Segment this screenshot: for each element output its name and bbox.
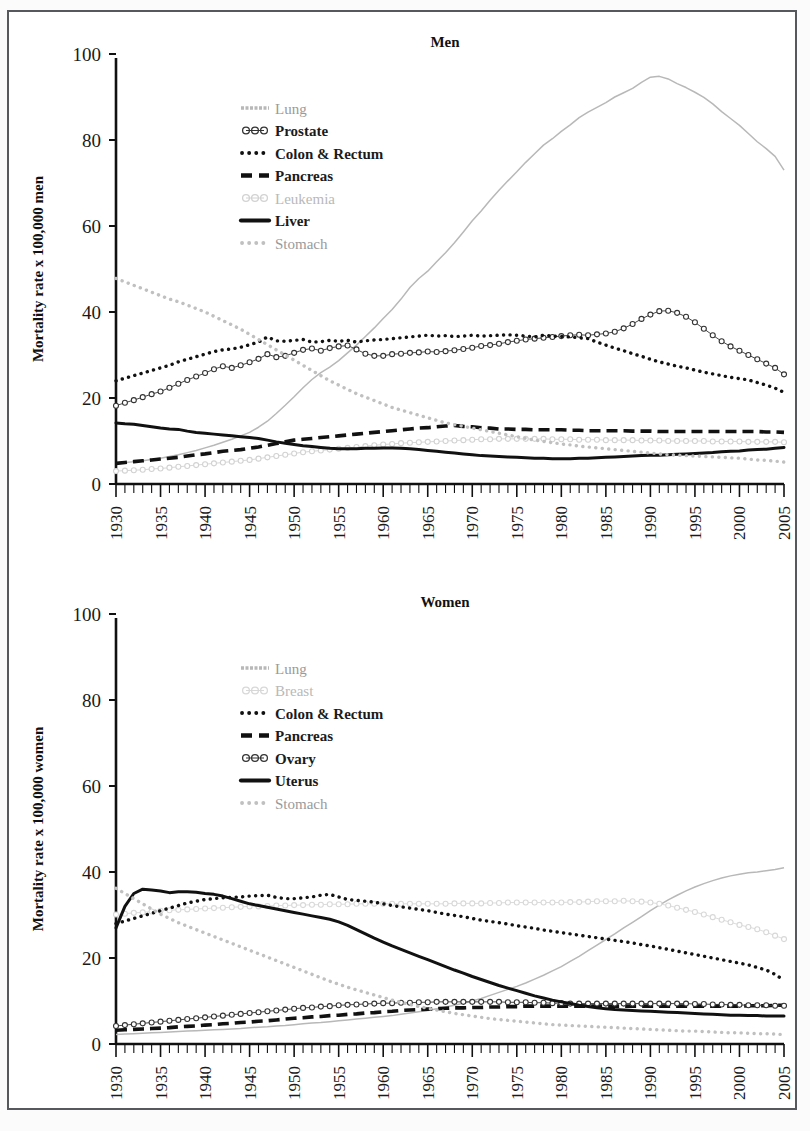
series-marker xyxy=(167,465,172,470)
series-marker xyxy=(782,937,787,942)
series-marker xyxy=(318,348,323,353)
series-marker xyxy=(194,374,199,379)
legend-item-uterus[interactable]: Uterus xyxy=(241,773,318,789)
series-marker xyxy=(746,353,751,358)
series-marker xyxy=(390,442,395,447)
x-tick-label: 1950 xyxy=(285,1066,304,1100)
legend-item-pancreas[interactable]: Pancreas xyxy=(241,728,333,744)
series-marker xyxy=(523,900,528,905)
series-marker xyxy=(764,930,769,935)
legend-item-breast[interactable]: Breast xyxy=(243,683,315,699)
legend-item-pancreas[interactable]: Pancreas xyxy=(241,168,333,184)
series-marker xyxy=(755,927,760,932)
legend-item-lung[interactable]: Lung xyxy=(241,101,307,117)
series-marker xyxy=(612,1001,617,1006)
x-tick-label: 1935 xyxy=(152,1066,171,1100)
series-marker xyxy=(443,999,448,1004)
series-marker xyxy=(247,1011,252,1016)
legend-item-liver[interactable]: Liver xyxy=(241,213,310,229)
series-marker xyxy=(621,326,626,331)
series-marker xyxy=(309,346,314,351)
series-line xyxy=(116,335,784,393)
series-prostate xyxy=(114,308,787,408)
series-marker xyxy=(220,364,225,369)
series-marker xyxy=(452,348,457,353)
series-marker xyxy=(149,392,154,397)
x-tick-label: 1985 xyxy=(597,506,616,540)
series-marker xyxy=(327,1004,332,1009)
legend-item-lung[interactable]: Lung xyxy=(241,661,307,677)
series-marker xyxy=(345,902,350,907)
series-marker xyxy=(274,355,279,360)
series-marker xyxy=(728,439,733,444)
series-marker xyxy=(114,912,119,917)
series-marker xyxy=(568,900,573,905)
series-marker xyxy=(479,437,484,442)
series-marker xyxy=(318,1004,323,1009)
series-marker xyxy=(737,348,742,353)
series-marker xyxy=(479,901,484,906)
series-breast xyxy=(114,898,787,941)
series-marker xyxy=(684,314,689,319)
series-marker xyxy=(675,1001,680,1006)
y-tick-label: 20 xyxy=(82,948,101,969)
x-tick-label: 2000 xyxy=(730,1066,749,1100)
legend-item-prostate[interactable]: Prostate xyxy=(243,123,329,139)
series-marker xyxy=(274,454,279,459)
series-marker xyxy=(470,437,475,442)
series-marker xyxy=(746,439,751,444)
x-tick-label: 1950 xyxy=(285,506,304,540)
series-marker xyxy=(630,438,635,443)
series-marker xyxy=(488,999,493,1004)
x-tick-label: 1965 xyxy=(419,1066,438,1100)
series-marker xyxy=(238,904,243,909)
series-marker xyxy=(309,1005,314,1010)
chart-panel-men: 0204060801001930193519401945195019551960… xyxy=(9,12,795,557)
chart-panel-women: 0204060801001930193519401945195019551960… xyxy=(9,572,795,1117)
series-marker xyxy=(203,371,208,376)
series-marker xyxy=(238,458,243,463)
series-marker xyxy=(185,377,190,382)
series-marker xyxy=(523,337,528,342)
series-marker xyxy=(701,1002,706,1007)
series-marker xyxy=(764,1003,769,1008)
series-marker xyxy=(461,999,466,1004)
series-marker xyxy=(122,400,127,405)
panel-title: Women xyxy=(420,594,470,610)
series-marker xyxy=(381,353,386,358)
legend-item-ovary[interactable]: Ovary xyxy=(243,751,317,767)
series-marker xyxy=(505,340,510,345)
legend-label: Lung xyxy=(275,101,307,117)
series-lung xyxy=(116,868,784,1035)
y-tick-label: 100 xyxy=(73,44,102,65)
series-marker xyxy=(532,1000,537,1005)
series-marker xyxy=(541,900,546,905)
series-marker xyxy=(657,1001,662,1006)
series-marker xyxy=(692,320,697,325)
series-marker xyxy=(309,449,314,454)
series-marker xyxy=(505,436,510,441)
series-marker xyxy=(336,1003,341,1008)
series-marker xyxy=(167,1018,172,1023)
series-marker xyxy=(203,462,208,467)
series-marker xyxy=(496,341,501,346)
series-marker xyxy=(176,464,181,469)
series-marker xyxy=(532,900,537,905)
legend-item-colon-rectum[interactable]: Colon & Rectum xyxy=(242,706,384,722)
series-colon-rectum xyxy=(116,335,784,393)
series-marker xyxy=(416,901,421,906)
legend-item-colon-rectum[interactable]: Colon & Rectum xyxy=(242,146,384,162)
y-tick-label: 20 xyxy=(82,388,101,409)
series-marker xyxy=(675,310,680,315)
series-marker xyxy=(203,906,208,911)
legend-item-leukemia[interactable]: Leukemia xyxy=(243,191,336,207)
series-marker xyxy=(354,1002,359,1007)
legend-item-stomach[interactable]: Stomach xyxy=(242,236,328,252)
series-marker xyxy=(470,345,475,350)
x-tick-label: 1970 xyxy=(463,1066,482,1100)
series-marker xyxy=(630,1001,635,1006)
series-marker xyxy=(149,466,154,471)
x-tick-label: 1995 xyxy=(686,1066,705,1100)
legend-item-stomach[interactable]: Stomach xyxy=(242,796,328,812)
y-tick-label: 80 xyxy=(82,130,101,151)
